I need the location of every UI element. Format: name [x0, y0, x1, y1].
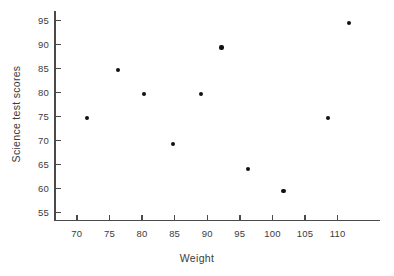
data-point [219, 45, 223, 49]
x-axis-tick-label: 75 [94, 229, 124, 239]
x-axis-tick-label: 95 [225, 229, 255, 239]
data-point [246, 167, 250, 171]
y-axis-title: Science test scores [10, 54, 22, 174]
scatter-chart-figure: 556065707580859095 707580859095100105110… [0, 0, 394, 276]
y-axis-tick-label: 70 [25, 136, 49, 146]
x-axis-tick-label: 105 [290, 229, 320, 239]
y-axis-tick-label: 95 [25, 16, 49, 26]
plot-area [54, 11, 380, 220]
x-axis-tick-label: 80 [127, 229, 157, 239]
x-axis-tick-label: 110 [323, 229, 353, 239]
y-axis-tick-label: 85 [25, 64, 49, 74]
x-axis-tick-label: 85 [160, 229, 190, 239]
x-axis-tick-label: 70 [62, 229, 92, 239]
y-axis-tick-label: 90 [25, 40, 49, 50]
x-axis-title: Weight [0, 252, 394, 264]
data-point [326, 116, 330, 120]
y-axis-tick-label: 80 [25, 88, 49, 98]
x-axis-tick-label: 100 [257, 229, 287, 239]
data-point [85, 116, 89, 120]
data-point [281, 189, 285, 193]
y-axis-tick-label: 65 [25, 160, 49, 170]
y-axis-tick-label: 60 [25, 184, 49, 194]
y-axis-tick-label: 55 [25, 208, 49, 218]
x-axis-tick-label: 90 [192, 229, 222, 239]
y-axis-tick-label: 75 [25, 112, 49, 122]
